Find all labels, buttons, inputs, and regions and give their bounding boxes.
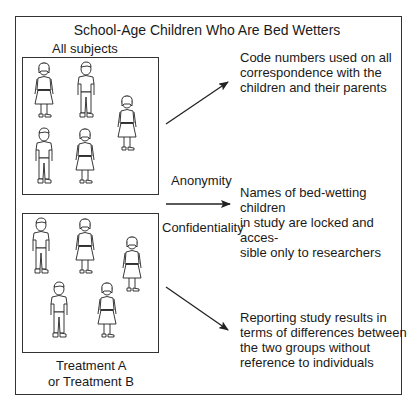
children-figures — [0, 0, 414, 411]
girl-figure-icon — [76, 219, 94, 273]
girl-figure-icon — [123, 237, 141, 291]
boy-figure-icon — [36, 128, 52, 183]
boy-figure-icon — [78, 62, 94, 117]
girl-figure-icon — [118, 96, 136, 150]
boy-figure-icon — [51, 282, 67, 337]
girl-figure-icon — [98, 283, 116, 337]
girl-figure-icon — [76, 129, 94, 183]
girl-figure-icon — [35, 63, 53, 117]
boy-figure-icon — [33, 218, 49, 273]
